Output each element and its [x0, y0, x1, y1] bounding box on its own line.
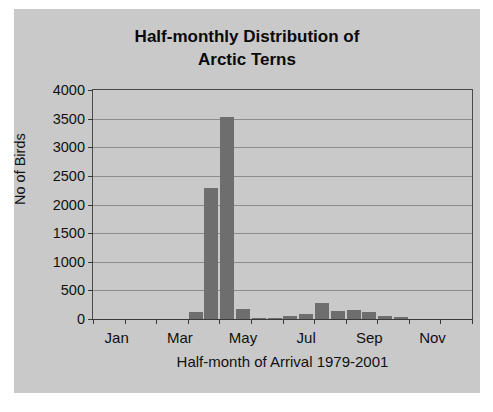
x-tick-label: Mar — [167, 329, 193, 346]
x-tick-label: Jan — [105, 329, 129, 346]
y-tick-mark — [88, 90, 93, 91]
gridline — [93, 233, 472, 234]
gridline — [93, 290, 472, 291]
y-tick-label: 3000 — [53, 139, 85, 155]
y-tick-mark — [88, 119, 93, 120]
y-tick-label: 4000 — [53, 82, 85, 98]
bar — [252, 318, 266, 320]
y-tick-mark — [88, 147, 93, 148]
bar — [204, 188, 218, 319]
x-tick-mark — [219, 319, 220, 324]
x-tick-mark — [125, 319, 126, 324]
x-tick-mark — [472, 319, 473, 324]
y-tick-label: 2000 — [53, 197, 85, 213]
y-tick-label: 1000 — [53, 254, 85, 270]
y-tick-label: 2500 — [53, 168, 85, 184]
x-tick-mark — [346, 319, 347, 324]
y-tick-mark — [88, 290, 93, 291]
bar — [268, 318, 282, 320]
x-tick-mark — [251, 319, 252, 324]
x-tick-label: Jul — [297, 329, 316, 346]
x-tick-label: Sep — [356, 329, 383, 346]
x-tick-mark — [409, 319, 410, 324]
y-tick-label: 0 — [77, 311, 85, 327]
y-tick-mark — [88, 262, 93, 263]
plot-area: 40003500300025002000150010005000 JanMarM… — [92, 89, 473, 320]
y-tick-mark — [88, 233, 93, 234]
bar — [378, 316, 392, 319]
y-tick-mark — [88, 205, 93, 206]
y-axis-label: No of Birds — [12, 133, 28, 205]
bar — [394, 317, 408, 319]
y-tick-label: 3500 — [53, 111, 85, 127]
gridline — [93, 262, 472, 263]
y-tick-label: 1500 — [53, 225, 85, 241]
x-tick-mark — [440, 319, 441, 324]
x-tick-mark — [156, 319, 157, 324]
bar — [189, 312, 203, 319]
x-tick-mark — [283, 319, 284, 324]
bar — [236, 309, 250, 319]
gridline — [93, 119, 472, 120]
x-tick-mark — [377, 319, 378, 324]
x-tick-label: May — [229, 329, 257, 346]
y-tick-mark — [88, 176, 93, 177]
bar — [347, 310, 361, 319]
gridline — [93, 176, 472, 177]
y-tick-label: 500 — [61, 282, 85, 298]
gridline — [93, 205, 472, 206]
x-tick-mark — [188, 319, 189, 324]
x-axis-label: Half-month of Arrival 1979-2001 — [92, 353, 473, 370]
bar — [315, 303, 329, 319]
x-tick-mark — [93, 319, 94, 324]
bar — [331, 311, 345, 319]
chart-title-line-2: Arctic Terns — [14, 48, 480, 71]
chart-figure: Half-monthly Distribution of Arctic Tern… — [14, 9, 480, 393]
chart-screenshot: Half-monthly Distribution of Arctic Tern… — [0, 0, 493, 412]
gridline — [93, 147, 472, 148]
bar — [283, 316, 297, 319]
bar — [299, 314, 313, 319]
x-tick-mark — [314, 319, 315, 324]
bar — [362, 312, 376, 319]
chart-title-line-1: Half-monthly Distribution of — [14, 25, 480, 48]
x-tick-label: Nov — [419, 329, 446, 346]
bar — [220, 117, 234, 319]
chart-title: Half-monthly Distribution of Arctic Tern… — [14, 25, 480, 71]
